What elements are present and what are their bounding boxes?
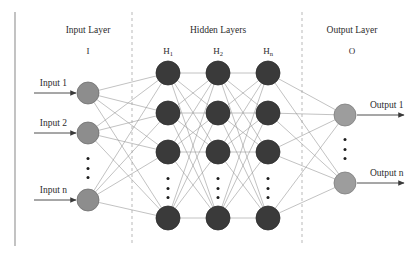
neural-network-figure: Input Layer I Hidden Layers H1 H2 Hn Out… [0, 0, 418, 258]
hidden-layer-1-symbol: H1 [163, 47, 173, 56]
input-label-3: Input n [40, 186, 67, 196]
hidden-neuron-col-3 [256, 206, 280, 230]
hidden-layer-n-symbol: Hn [263, 47, 273, 56]
hidden-neuron-col-3 [256, 61, 280, 85]
hidden-neuron-col-2 [206, 101, 230, 125]
input-label-2: Input 2 [40, 119, 67, 129]
hidden-neuron-col-2 [206, 61, 230, 85]
hidden-ellipsis-col-1 [167, 177, 170, 199]
hidden-layer-2-symbol: H2 [213, 47, 223, 56]
hidden-ellipsis-col-2 [217, 177, 220, 199]
neuron-nodes [77, 61, 356, 230]
hidden-neuron-col-2 [206, 206, 230, 230]
hidden-neuron-col-3 [256, 140, 280, 164]
output-layer-title: Output Layer [327, 26, 378, 36]
output-ellipsis [344, 138, 347, 160]
output-label-1: Output 1 [370, 101, 404, 111]
output-layer-symbol: O [349, 47, 356, 56]
input-neuron [77, 122, 99, 144]
hidden-neuron-col-1 [156, 61, 180, 85]
hidden-neuron-col-2 [206, 140, 230, 164]
input-layer-title: Input Layer [66, 26, 111, 36]
hidden-neuron-col-1 [156, 206, 180, 230]
input-neuron [77, 189, 99, 211]
network-graphics [0, 0, 418, 258]
output-label-2: Output n [370, 169, 404, 179]
output-neuron [334, 172, 356, 194]
output-neuron [334, 104, 356, 126]
hidden-layers-title: Hidden Layers [190, 26, 246, 36]
input-layer-symbol: I [87, 47, 90, 56]
hidden-neuron-col-1 [156, 101, 180, 125]
input-label-1: Input 1 [40, 79, 67, 89]
hidden-neuron-col-3 [256, 101, 280, 125]
input-neuron [77, 82, 99, 104]
hidden-ellipsis-col-3 [267, 177, 270, 199]
input-ellipsis [87, 157, 90, 179]
hidden-neuron-col-1 [156, 140, 180, 164]
